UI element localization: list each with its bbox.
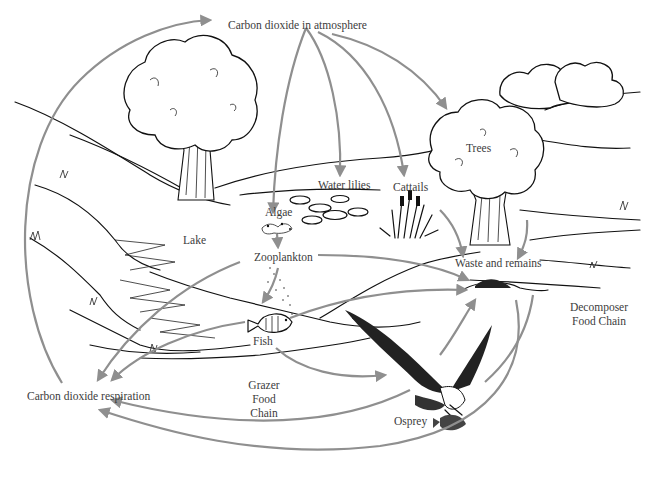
algae-drawing [262,223,292,234]
label-trees: Trees [466,141,491,155]
label-co2-respiration: Carbon dioxide respiration [27,389,150,403]
label-co2-atmosphere: Carbon dioxide in atmosphere [228,18,367,32]
label-lake: Lake [183,233,206,247]
cattails-drawing [380,190,438,238]
left-tree [124,36,257,200]
label-decomposer-line2: Food Chain [562,314,636,328]
label-grazer-food-chain: Grazer Food Chain [240,378,288,420]
label-decomposer-line1: Decomposer [562,300,636,314]
label-decomposer-food-chain: Decomposer Food Chain [562,300,636,328]
fish-drawing [248,314,292,332]
water-lilies-drawing [290,196,368,225]
label-grazer-line2: Food [240,392,288,406]
label-algae: Algae [265,205,292,219]
illustration [0,0,651,483]
label-fish: Fish [253,334,273,348]
label-cattails: Cattails [393,180,428,194]
label-zooplankton: Zooplankton [254,250,313,264]
label-water-lilies: Water lilies [318,178,370,192]
label-waste-remains: Waste and remains [455,256,542,270]
osprey-drawing [345,310,492,430]
label-grazer-line3: Chain [240,406,288,420]
label-grazer-line1: Grazer [240,378,288,392]
label-osprey: Osprey [394,414,427,428]
waste-pile-drawing [462,279,548,291]
carbon-cycle-diagram: Carbon dioxide in atmosphere Trees Water… [0,0,651,483]
landscape [15,92,640,359]
